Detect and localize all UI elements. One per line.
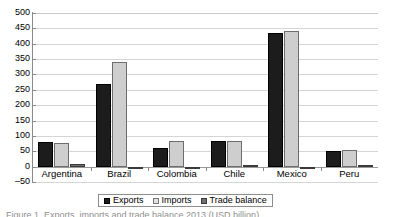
bar-trade-balance-peru bbox=[358, 165, 373, 167]
category-label-mexico: Mexico bbox=[263, 168, 321, 179]
y-tick-mark-450 bbox=[33, 28, 36, 29]
y-tick-label-150: 150 bbox=[0, 116, 30, 125]
bar-group-mexico bbox=[263, 13, 321, 182]
y-tick-label-350: 350 bbox=[0, 54, 30, 63]
bar-imports-peru bbox=[342, 150, 357, 167]
y-tick-mark-500 bbox=[33, 13, 36, 14]
y-tick-mark-50 bbox=[33, 151, 36, 152]
category-label-argentina: Argentina bbox=[33, 168, 91, 179]
trade-balance-swatch-icon bbox=[201, 198, 207, 204]
bar-group-peru bbox=[321, 13, 379, 182]
legend-item-exports[interactable]: Exports bbox=[104, 196, 144, 205]
legend-item-trade-balance[interactable]: Trade balance bbox=[201, 196, 267, 205]
figure-caption: Figure 1. Exports, imports and trade bal… bbox=[6, 210, 259, 217]
plot-area bbox=[33, 13, 378, 182]
bar-imports-chile bbox=[227, 141, 242, 166]
bar-imports-mexico bbox=[284, 31, 299, 166]
legend-label: Trade balance bbox=[210, 196, 267, 205]
bar-group-colombia bbox=[148, 13, 206, 182]
chart-figure: 500450400350300250200150100500–50 Export… bbox=[0, 0, 395, 217]
bar-exports-colombia bbox=[153, 148, 168, 167]
category-label-brazil: Brazil bbox=[91, 168, 149, 179]
y-tick-mark-400 bbox=[33, 44, 36, 45]
bar-exports-peru bbox=[326, 151, 341, 166]
y-tick-label-500: 500 bbox=[0, 8, 30, 17]
y-tick-label-0: 0 bbox=[0, 162, 30, 171]
y-tick-label-450: 450 bbox=[0, 23, 30, 32]
y-tick-label-250: 250 bbox=[0, 85, 30, 94]
bar-exports-chile bbox=[211, 141, 226, 167]
y-axis-tick-labels: 500450400350300250200150100500–50 bbox=[0, 0, 30, 217]
bar-group-argentina bbox=[33, 13, 91, 182]
chart-legend: ExportsImportsTrade balance bbox=[98, 194, 273, 207]
bar-imports-brazil bbox=[112, 62, 127, 166]
legend-item-imports[interactable]: Imports bbox=[153, 196, 192, 205]
bar-trade-balance-argentina bbox=[70, 164, 85, 167]
y-tick-label-400: 400 bbox=[0, 39, 30, 48]
bar-imports-argentina bbox=[54, 143, 69, 167]
y-tick-mark-200 bbox=[33, 105, 36, 106]
y-tick-label-300: 300 bbox=[0, 69, 30, 78]
bar-trade-balance-chile bbox=[243, 165, 258, 167]
y-tick-mark--50 bbox=[33, 182, 36, 183]
y-tick-label-200: 200 bbox=[0, 100, 30, 109]
legend-label: Exports bbox=[113, 196, 144, 205]
gridline--50 bbox=[33, 182, 378, 183]
category-label-peru: Peru bbox=[321, 168, 379, 179]
y-tick-mark-250 bbox=[33, 90, 36, 91]
y-tick-mark-300 bbox=[33, 74, 36, 75]
bar-group-brazil bbox=[91, 13, 149, 182]
imports-swatch-icon bbox=[153, 198, 159, 204]
y-tick-mark-350 bbox=[33, 59, 36, 60]
bar-exports-brazil bbox=[96, 84, 111, 167]
y-tick-label--50: –50 bbox=[0, 177, 30, 186]
bar-exports-mexico bbox=[268, 33, 283, 167]
bar-group-chile bbox=[206, 13, 264, 182]
bar-exports-argentina bbox=[38, 142, 53, 167]
bar-imports-colombia bbox=[169, 141, 184, 167]
exports-swatch-icon bbox=[104, 198, 110, 204]
y-tick-mark-150 bbox=[33, 121, 36, 122]
y-tick-label-100: 100 bbox=[0, 131, 30, 140]
legend-label: Imports bbox=[162, 196, 192, 205]
y-tick-label-50: 50 bbox=[0, 146, 30, 155]
category-label-chile: Chile bbox=[206, 168, 264, 179]
category-label-colombia: Colombia bbox=[148, 168, 206, 179]
y-tick-mark-100 bbox=[33, 136, 36, 137]
